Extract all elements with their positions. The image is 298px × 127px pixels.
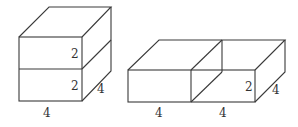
top-divider (191, 40, 222, 70)
label-top-height: 2 (71, 47, 79, 61)
right-face (255, 40, 285, 102)
side-divider (82, 40, 111, 69)
label-depth: 4 (272, 83, 280, 97)
label-bottom-height: 2 (71, 79, 79, 93)
label-width: 4 (43, 106, 51, 120)
label-height: 2 (245, 80, 253, 94)
inner-diagonal-edge (191, 72, 222, 102)
label-width-right: 4 (219, 106, 227, 120)
label-depth: 4 (97, 82, 105, 96)
top-face (19, 7, 111, 37)
diagram-canvas: 2 2 4 4 2 4 4 4 (0, 0, 298, 127)
label-width-left: 4 (155, 106, 163, 120)
side-by-side-prisms-figure: 2 4 4 4 (128, 40, 285, 120)
stacked-prisms-figure: 2 2 4 4 (19, 7, 111, 120)
